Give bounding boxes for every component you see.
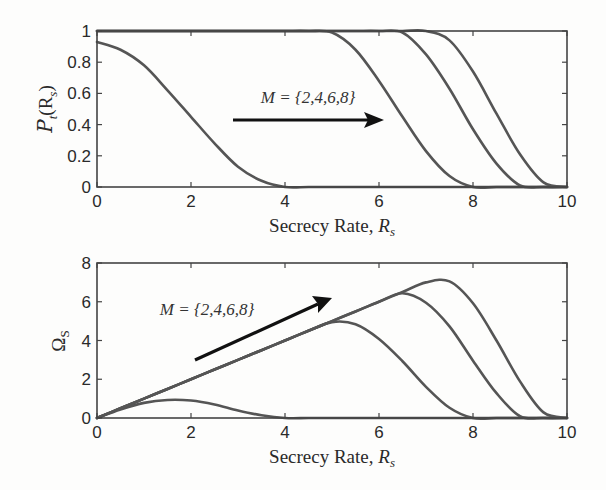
top-ticks: 024681000.20.40.60.81	[67, 22, 576, 211]
y-tick-label: 8	[82, 254, 91, 273]
x-tick-label: 2	[186, 423, 195, 442]
y-tick-label: 2	[82, 370, 91, 389]
y-tick-label: 1	[82, 22, 91, 41]
bottom-annotation: M = {2,4,6,8}	[159, 300, 255, 319]
top-plot: 024681000.20.40.60.81 Pt(Rs) Secrecy Rat…	[33, 22, 576, 239]
y-tick-label: 4	[82, 332, 91, 351]
x-tick-label: 4	[280, 423, 289, 442]
y-tick-label: 0.2	[67, 147, 91, 166]
top-curves	[97, 30, 567, 188]
curve-m-2	[97, 400, 567, 418]
curve-m-6	[97, 30, 567, 187]
y-tick-label: 6	[82, 293, 91, 312]
y-tick-label: 0.8	[67, 53, 91, 72]
top-annotation: M = {2,4,6,8}	[260, 88, 356, 107]
x-tick-label: 0	[92, 423, 101, 442]
bottom-ylabel: ΩS	[48, 330, 72, 351]
y-tick-label: 0.4	[67, 116, 91, 135]
y-tick-label: 0.6	[67, 84, 91, 103]
x-tick-label: 2	[186, 192, 195, 211]
x-tick-label: 8	[468, 423, 477, 442]
figure: 024681000.20.40.60.81 Pt(Rs) Secrecy Rat…	[0, 0, 606, 490]
top-arrow	[233, 112, 384, 128]
x-tick-label: 6	[374, 192, 383, 211]
curve-m-4	[97, 322, 567, 419]
top-xlabel: Secrecy Rate, Rs	[269, 215, 395, 239]
top-ylabel: Pt(Rs)	[33, 85, 60, 133]
bottom-xlabel: Secrecy Rate, Rs	[269, 446, 395, 470]
svg-text:Pt(Rs): Pt(Rs)	[33, 85, 60, 133]
x-tick-label: 4	[280, 192, 289, 211]
y-tick-label: 0	[82, 178, 91, 197]
x-tick-label: 8	[468, 192, 477, 211]
y-tick-label: 0	[82, 409, 91, 428]
x-tick-label: 10	[558, 192, 577, 211]
x-tick-label: 6	[374, 423, 383, 442]
x-tick-label: 0	[92, 192, 101, 211]
x-tick-label: 10	[558, 423, 577, 442]
bottom-plot: 024681002468 ΩS Secrecy Rate, Rs M = {2,…	[48, 254, 576, 470]
